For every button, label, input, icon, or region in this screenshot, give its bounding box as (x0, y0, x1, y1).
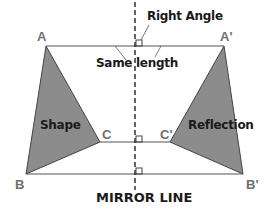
right-angle-leader (141, 25, 149, 40)
vertex-C-label: C (102, 128, 111, 141)
right-angle-marker-bottom (136, 168, 142, 174)
vertex-A-prime-label: A' (220, 30, 232, 43)
reflection-triangle (170, 46, 243, 174)
reflection-label: Reflection (188, 119, 254, 131)
vertex-A-label: A (37, 30, 46, 43)
right-angle-marker-middle (136, 136, 142, 142)
vertex-C-prime-label: C' (160, 128, 172, 141)
right-angle-label: Right Angle (147, 10, 223, 22)
shape-label: Shape (40, 119, 81, 131)
same-length-label: Same length (96, 57, 178, 69)
mirror-line-label: MIRROR LINE (96, 191, 192, 204)
vertex-B-prime-label: B' (246, 178, 258, 191)
vertex-B-label: B (15, 178, 24, 191)
right-angle-marker-top (136, 40, 142, 46)
shape-triangle (26, 46, 100, 174)
